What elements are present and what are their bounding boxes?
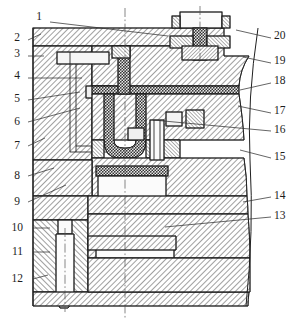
part-lower-core-block bbox=[88, 236, 176, 250]
callout-10-spacer-block: 10 bbox=[9, 222, 23, 234]
callout-15-core-insert: 15 bbox=[274, 151, 286, 163]
callout-11-guide-pin: 11 bbox=[9, 246, 23, 258]
part-ejector-pin bbox=[150, 120, 164, 160]
callout-3-upper-guide-bush: 3 bbox=[6, 48, 20, 60]
callout-8-core-retainer-plate: 8 bbox=[6, 170, 20, 182]
part-ejector-retainer-plate bbox=[88, 196, 248, 214]
callout-5-angle-pin: 5 bbox=[6, 93, 20, 105]
mold-assembly-section-drawing bbox=[0, 0, 292, 334]
callout-2-locating-ring: 2 bbox=[6, 32, 20, 44]
callout-20-sprue-bushing-bolt: 20 bbox=[274, 30, 286, 42]
callout-18-parting-line-seal: 18 bbox=[274, 75, 286, 87]
leader-line-19 bbox=[243, 57, 271, 63]
figure-root: 1234567891011122019181716151413 bbox=[0, 0, 292, 334]
part-core-retainer-plate bbox=[33, 160, 92, 196]
callout-12-bottom-clamping-plate: 12 bbox=[9, 273, 23, 285]
callout-6-cavity-retainer-plate: 6 bbox=[6, 116, 20, 128]
leader-line-18 bbox=[240, 83, 271, 90]
leader-line-15 bbox=[240, 150, 271, 158]
part-support-plate bbox=[33, 196, 88, 220]
callout-9-support-plate: 9 bbox=[6, 196, 20, 208]
leader-line-20 bbox=[236, 30, 271, 38]
callout-7-mold-base-left-wall: 7 bbox=[6, 140, 20, 152]
callout-16-ejector-pin: 16 bbox=[274, 124, 286, 136]
callout-4-side-core-slide: 4 bbox=[6, 70, 20, 82]
part-parting-line-seal bbox=[92, 86, 239, 94]
callout-19-upper-cavity-plate: 19 bbox=[274, 55, 286, 67]
part-upper-guide-bush bbox=[112, 46, 130, 58]
callout-1-top-clamping-plate: 1 bbox=[28, 11, 42, 23]
callout-17-cavity-insert: 17 bbox=[274, 105, 286, 117]
callout-13-ejector-plate: 13 bbox=[274, 210, 286, 222]
leader-line-17 bbox=[238, 106, 271, 113]
callout-14-ejector-retainer-plate: 14 bbox=[274, 190, 286, 202]
